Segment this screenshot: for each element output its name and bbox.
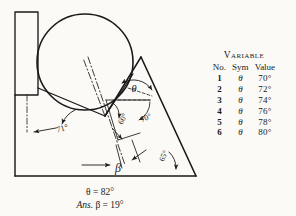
caption-given-line: θ = 82° (0, 186, 200, 199)
base-angle-65-arrow (169, 152, 176, 169)
table-row: 5 θ 78° (210, 116, 278, 127)
label-beta: β (114, 161, 121, 175)
cell-value: 74° (252, 95, 279, 106)
cell-sym: θ (229, 116, 252, 127)
variable-table-grid: No. Sym Value 1 θ 70° 2 θ 72° 3 (210, 62, 278, 138)
cell-sym: θ (229, 105, 252, 116)
cell-no: 1 (210, 73, 229, 84)
caption-answer-line: Ans. β = 19° (0, 199, 200, 212)
cell-value: 70° (252, 73, 279, 84)
table-row: 1 θ 70° (210, 73, 278, 84)
large-triangular-block (15, 57, 196, 176)
cell-sym: θ (229, 73, 252, 84)
label-angle-inner-60: 60° (116, 112, 129, 126)
cell-no: 4 (210, 105, 229, 116)
table-row: 6 θ 80° (210, 127, 278, 138)
cell-value: 76° (252, 105, 279, 116)
variable-table: Variable No. Sym Value 1 θ 70° 2 θ 72° (196, 50, 292, 138)
beta-angle-arrows (82, 140, 146, 168)
center-line-to-circle-center (83, 58, 105, 116)
table-row: 3 θ 74° (210, 95, 278, 106)
cell-no: 6 (210, 127, 229, 138)
cell-no: 3 (210, 95, 229, 106)
table-header-row: No. Sym Value (210, 62, 278, 73)
table-row: 2 θ 72° (210, 84, 278, 95)
cell-sym: θ (229, 95, 252, 106)
cell-value: 80° (252, 127, 279, 138)
cell-value: 78° (252, 116, 279, 127)
figure-caption: θ = 82° Ans. β = 19° (0, 186, 200, 211)
cell-no: 5 (210, 116, 229, 127)
cell-value: 72° (252, 84, 279, 95)
column-header-value: Value (252, 62, 279, 73)
label-theta: θ (131, 82, 137, 94)
figure-page: θ β 71° 60° 70° 65° Variable No. Sym Val… (0, 0, 296, 216)
left-angle-71-arc (34, 110, 75, 132)
column-header-sym: Sym (229, 62, 252, 73)
label-angle-left-71: 71° (55, 122, 69, 135)
label-angle-base-65: 65° (157, 149, 170, 163)
vertical-wall (15, 12, 38, 95)
cell-sym: θ (229, 84, 252, 95)
variable-table-title: Variable (196, 50, 292, 60)
column-header-no: No. (210, 62, 229, 73)
table-row: 4 θ 76° (210, 105, 278, 116)
cell-sym: θ (229, 127, 252, 138)
label-angle-inner-70: 70° (139, 111, 153, 124)
cell-no: 2 (210, 84, 229, 95)
caption-answer-prefix: Ans. (76, 200, 93, 210)
caption-answer-value: β = 19° (95, 200, 123, 210)
